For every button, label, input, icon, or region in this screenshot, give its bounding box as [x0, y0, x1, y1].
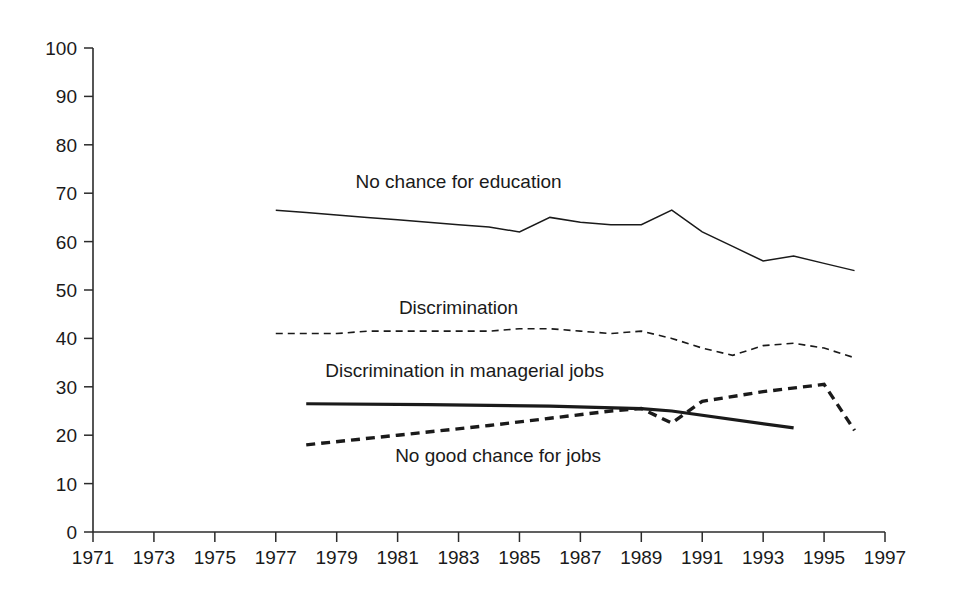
x-tick-label: 1971: [72, 547, 114, 568]
x-tick-label: 1985: [498, 547, 540, 568]
y-axis-group: 0102030405060708090100: [45, 38, 93, 543]
line-chart-figure: 0102030405060708090100 19711973197519771…: [0, 0, 964, 607]
y-tick-label: 20: [56, 425, 77, 446]
series-line-1: [276, 329, 855, 358]
x-tick-label: 1991: [681, 547, 723, 568]
y-axis-ticks: 0102030405060708090100: [45, 38, 93, 543]
y-tick-label: 0: [66, 522, 77, 543]
x-tick-label: 1993: [742, 547, 784, 568]
series-line-2: [306, 404, 793, 428]
x-tick-label: 1981: [376, 547, 418, 568]
y-tick-label: 90: [56, 86, 77, 107]
x-axis-ticks: 1971197319751977197919811983198519871989…: [72, 532, 906, 568]
series-annotations-group: No chance for educationDiscriminationDis…: [325, 171, 604, 465]
series-annotation-1: Discrimination: [399, 297, 518, 318]
series-line-3: [306, 384, 854, 445]
y-tick-label: 60: [56, 232, 77, 253]
x-axis-group: 1971197319751977197919811983198519871989…: [72, 532, 906, 568]
y-tick-label: 100: [45, 38, 77, 59]
y-tick-label: 50: [56, 280, 77, 301]
chart-plot-area: 0102030405060708090100 19711973197519771…: [0, 0, 964, 607]
y-tick-label: 30: [56, 377, 77, 398]
x-tick-label: 1983: [437, 547, 479, 568]
x-tick-label: 1997: [864, 547, 906, 568]
x-tick-label: 1977: [255, 547, 297, 568]
series-annotation-2: Discrimination in managerial jobs: [325, 360, 604, 381]
series-annotation-0: No chance for education: [356, 171, 562, 192]
data-series-group: [276, 210, 855, 445]
y-tick-label: 80: [56, 135, 77, 156]
series-annotation-3: No good chance for jobs: [395, 445, 601, 466]
y-tick-label: 70: [56, 183, 77, 204]
x-tick-label: 1987: [559, 547, 601, 568]
y-tick-label: 10: [56, 474, 77, 495]
y-tick-label: 40: [56, 328, 77, 349]
x-tick-label: 1973: [133, 547, 175, 568]
x-tick-label: 1975: [194, 547, 236, 568]
x-tick-label: 1979: [316, 547, 358, 568]
x-tick-label: 1989: [620, 547, 662, 568]
x-tick-label: 1995: [803, 547, 845, 568]
series-line-0: [276, 210, 855, 271]
